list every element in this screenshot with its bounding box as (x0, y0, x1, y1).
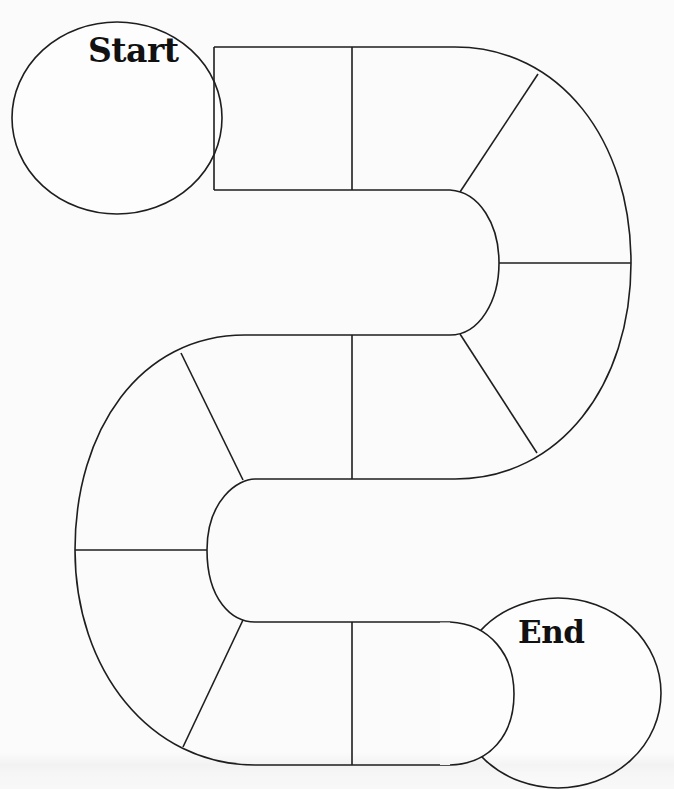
end-label: End (518, 617, 584, 648)
game-board: Start End (0, 0, 674, 789)
path-inner-right-edge (75, 190, 499, 765)
cell-divider (460, 334, 537, 453)
cell-divider (183, 620, 243, 747)
cell-divider (460, 74, 538, 192)
cell-divider (181, 353, 243, 480)
board-path-drawing (0, 0, 674, 789)
start-label: Start (88, 34, 179, 67)
